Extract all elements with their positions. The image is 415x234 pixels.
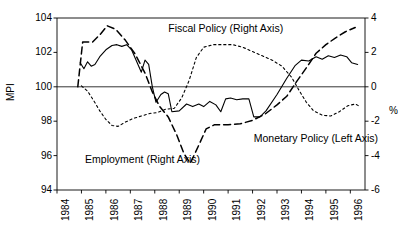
x-tick-1985: 1985 bbox=[85, 199, 95, 221]
y-tick-right-4: 4 bbox=[371, 13, 377, 23]
series-line-dotted bbox=[81, 45, 360, 127]
y-tick-right-neg6: -6 bbox=[371, 185, 380, 195]
x-tick-1989: 1989 bbox=[183, 199, 193, 221]
y-tick-right-neg2: -2 bbox=[371, 116, 380, 126]
y-axis-left-title: MPI bbox=[6, 83, 16, 101]
series-label-monetary: Monetary Policy (Left Axis) bbox=[254, 133, 378, 144]
x-tick-1994: 1994 bbox=[305, 199, 315, 221]
y-tick-right-neg4: -4 bbox=[371, 151, 380, 161]
axes-group bbox=[54, 18, 369, 194]
y-tick-left-100: 100 bbox=[20, 82, 52, 92]
x-tick-1986: 1986 bbox=[110, 199, 120, 221]
x-tick-1995: 1995 bbox=[330, 199, 340, 221]
y-tick-left-94: 94 bbox=[20, 185, 52, 195]
y-tick-right-0: 0 bbox=[371, 82, 377, 92]
series-line-solid bbox=[80, 45, 357, 117]
y-tick-left-96: 96 bbox=[20, 151, 52, 161]
series-label-employment: Employment (Right Axis) bbox=[85, 154, 200, 165]
x-tick-1991: 1991 bbox=[232, 199, 242, 221]
x-tick-1988: 1988 bbox=[159, 199, 169, 221]
x-tick-1990: 1990 bbox=[208, 199, 218, 221]
y-axis-right-title: % bbox=[389, 106, 398, 116]
x-tick-1987: 1987 bbox=[134, 199, 144, 221]
x-tick-1996: 1996 bbox=[354, 199, 364, 221]
y-tick-right-2: 2 bbox=[371, 47, 377, 57]
x-tick-1993: 1993 bbox=[281, 199, 291, 221]
x-tick-1984: 1984 bbox=[61, 199, 71, 221]
y-tick-left-104: 104 bbox=[20, 13, 52, 23]
series-label-fiscal: Fiscal Policy (Right Axis) bbox=[168, 23, 283, 34]
x-tick-1992: 1992 bbox=[257, 199, 267, 221]
y-tick-left-98: 98 bbox=[20, 116, 52, 126]
chart-figure: 949698100102104 -6-4-2024 19841985198619… bbox=[0, 0, 415, 234]
y-tick-left-102: 102 bbox=[20, 47, 52, 57]
